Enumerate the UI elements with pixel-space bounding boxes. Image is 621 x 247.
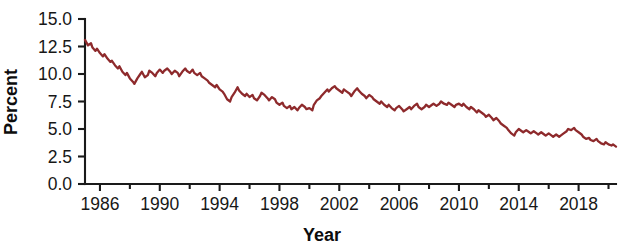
y-tick-label: 7.5 [48, 92, 72, 112]
y-tick-label: 15.0 [38, 9, 72, 29]
x-axis-title: Year [303, 225, 341, 245]
x-tick-label: 2014 [499, 194, 538, 214]
chart-container: 0.02.55.07.510.012.515.0 198619901994199… [0, 0, 621, 247]
y-tick-label: 5.0 [48, 119, 73, 139]
data-series-percent [85, 40, 616, 147]
y-axis-title: Percent [1, 69, 21, 135]
x-tick-label: 1994 [200, 194, 239, 214]
y-tick-label: 0.0 [48, 174, 73, 194]
y-tick-label: 10.0 [38, 64, 72, 84]
x-axis-ticks: 198619901994199820022006201020142018 [80, 184, 608, 214]
x-tick-label: 2006 [380, 194, 419, 214]
y-axis-ticks: 0.02.55.07.510.012.515.0 [38, 9, 85, 194]
x-tick-label: 1998 [260, 194, 299, 214]
x-tick-label: 2010 [439, 194, 478, 214]
y-tick-label: 2.5 [48, 147, 72, 167]
y-tick-label: 12.5 [38, 37, 72, 57]
x-tick-label: 1986 [80, 194, 119, 214]
x-tick-label: 2002 [320, 194, 359, 214]
x-tick-label: 2018 [559, 194, 598, 214]
line-chart: 0.02.55.07.510.012.515.0 198619901994199… [0, 0, 621, 247]
x-tick-label: 1990 [140, 194, 179, 214]
